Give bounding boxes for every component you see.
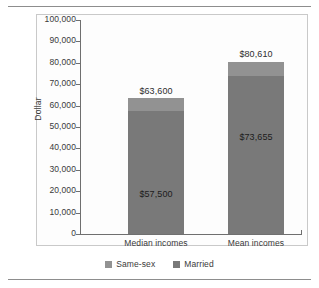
y-axis-tick — [76, 191, 80, 192]
legend-swatch-married — [173, 261, 180, 268]
y-axis-tick — [76, 41, 80, 42]
bar-segment-value-label: $57,500 — [118, 189, 194, 199]
legend-item-married[interactable]: Married — [173, 259, 214, 269]
y-axis-tick — [76, 63, 80, 64]
bar-segment-same-sex — [228, 62, 284, 77]
chart-legend: Same-sex Married — [0, 259, 319, 269]
y-axis-tick — [76, 20, 80, 21]
y-axis-tick — [76, 84, 80, 85]
bar-segment-same-sex — [128, 98, 184, 111]
y-axis-tick — [76, 106, 80, 107]
y-axis-tick — [76, 148, 80, 149]
legend-item-same-sex[interactable]: Same-sex — [105, 259, 155, 269]
chart-figure: Dollar 010,00020,00030,00040,00050,00060… — [0, 0, 319, 288]
y-axis-tick — [76, 170, 80, 171]
legend-label-same-sex: Same-sex — [116, 259, 155, 269]
y-axis-tick — [76, 213, 80, 214]
legend-swatch-same-sex — [105, 261, 112, 268]
bar-median-incomes[interactable] — [128, 98, 184, 234]
bar-mean-incomes[interactable] — [228, 62, 284, 235]
bar-total-label: $63,600 — [118, 86, 194, 96]
bar-segment-married — [228, 76, 284, 234]
bar-segment-value-label: $73,655 — [218, 132, 294, 142]
x-axis-category-label: Median incomes — [112, 238, 200, 248]
x-axis-category-label: Mean incomes — [212, 238, 300, 248]
y-axis-tick — [76, 234, 80, 235]
bar-segment-married — [128, 111, 184, 234]
y-axis-tick-labels: 010,00020,00030,00040,00050,00060,00070,… — [0, 0, 80, 288]
y-axis-tick — [76, 127, 80, 128]
legend-label-married: Married — [184, 259, 214, 269]
x-axis-line — [80, 234, 302, 235]
bar-total-label: $80,610 — [218, 49, 294, 59]
